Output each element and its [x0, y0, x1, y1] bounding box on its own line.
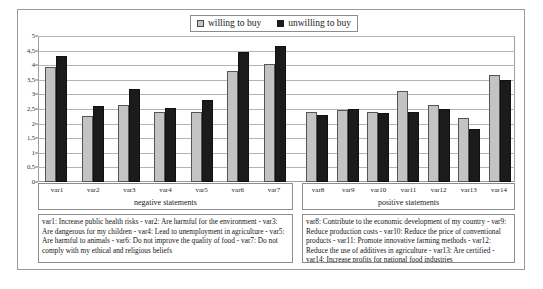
bar-var8-unwilling [317, 115, 328, 182]
bar-var5-willing [191, 112, 202, 182]
bar-cluster [111, 36, 147, 182]
category-label-var10: var10 [363, 184, 393, 197]
bar-var9-willing [337, 110, 348, 182]
legend-swatch-willing-icon [197, 20, 204, 27]
caption-negative-statements: var1: Increase public health risks - var… [38, 214, 293, 263]
bar-cluster [74, 36, 110, 182]
bar-cluster [220, 36, 256, 182]
bar-var3-willing [118, 105, 129, 182]
axis-title-positive: positive statements [303, 197, 514, 208]
bar-var13-unwilling [469, 129, 480, 182]
bar-cluster [454, 36, 484, 182]
plot-area: 00,511,522,533,544,55 [38, 36, 515, 182]
bar-cluster [485, 36, 515, 182]
bar-cluster [302, 36, 332, 182]
category-ticks-positive: var8var9var10var11var12var13var14 [303, 184, 514, 197]
bar-var7-unwilling [275, 46, 286, 182]
bar-var6-unwilling [238, 52, 249, 182]
bar-var3-unwilling [129, 89, 140, 182]
category-axis-negative: var1var2var3var4var5var6var7 negative st… [38, 183, 293, 210]
category-label-var11: var11 [393, 184, 423, 197]
category-label-var6: var6 [220, 184, 256, 197]
bar-var11-willing [397, 91, 408, 182]
bar-cluster [257, 36, 293, 182]
category-ticks-negative: var1var2var3var4var5var6var7 [39, 184, 292, 197]
category-label-var12: var12 [424, 184, 454, 197]
bar-var8-willing [306, 112, 317, 182]
category-label-var5: var5 [184, 184, 220, 197]
category-label-var14: var14 [484, 184, 514, 197]
bar-var13-willing [458, 118, 469, 182]
bar-var14-willing [489, 75, 500, 182]
category-label-var3: var3 [111, 184, 147, 197]
chart-legend: willing to buy unwilling to buy [190, 15, 358, 32]
bar-cluster [363, 36, 393, 182]
category-label-var8: var8 [303, 184, 333, 197]
bar-var12-willing [428, 105, 439, 182]
category-axis-positive: var8var9var10var11var12var13var14 positi… [302, 183, 515, 210]
bar-var4-unwilling [165, 108, 176, 182]
bar-var9-unwilling [348, 109, 359, 182]
caption-positive-statements: var8: Contribute to the economic develop… [302, 214, 515, 263]
bar-var7-willing [264, 64, 275, 182]
bar-var6-willing [227, 71, 238, 182]
bar-var14-unwilling [500, 80, 511, 182]
y-axis-tick-label: 0,5 [27, 164, 35, 171]
chart-figure: willing to buy unwilling to buy 00,511,5… [17, 9, 525, 270]
bar-group-negative [38, 36, 293, 182]
bar-var5-unwilling [202, 100, 213, 182]
bar-var11-unwilling [408, 112, 419, 182]
category-label-var1: var1 [39, 184, 75, 197]
legend-label-unwilling: unwilling to buy [288, 19, 351, 29]
y-axis-tick-label: 3,5 [27, 77, 35, 84]
bar-cluster [332, 36, 362, 182]
bar-cluster [184, 36, 220, 182]
bar-var10-unwilling [378, 113, 389, 182]
category-label-var2: var2 [75, 184, 111, 197]
legend-swatch-unwilling-icon [277, 20, 284, 27]
y-axis-tick-label: 4,5 [27, 47, 35, 54]
y-axis-tick-label: 2,5 [27, 106, 35, 113]
bar-cluster [147, 36, 183, 182]
bar-var2-willing [82, 116, 93, 182]
bar-group-positive [302, 36, 515, 182]
legend-item-unwilling: unwilling to buy [277, 19, 351, 29]
bar-var12-unwilling [439, 109, 450, 182]
bar-var10-willing [367, 112, 378, 182]
legend-item-willing: willing to buy [197, 19, 261, 29]
bar-cluster [38, 36, 74, 182]
category-label-var13: var13 [454, 184, 484, 197]
y-axis-tick-label: 1,5 [27, 135, 35, 142]
bar-var2-unwilling [93, 106, 104, 182]
bar-cluster [393, 36, 423, 182]
axis-title-negative: negative statements [39, 197, 292, 208]
category-label-var9: var9 [333, 184, 363, 197]
bar-var1-unwilling [56, 56, 67, 182]
category-label-var7: var7 [256, 184, 292, 197]
bar-var1-willing [45, 67, 56, 182]
bar-var4-willing [154, 112, 165, 182]
legend-label-willing: willing to buy [208, 19, 261, 29]
bar-cluster [424, 36, 454, 182]
category-label-var4: var4 [147, 184, 183, 197]
